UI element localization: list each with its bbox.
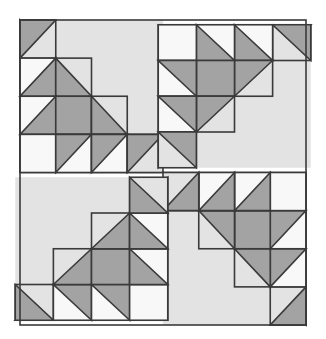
unit-cell-r1-c1: [53, 249, 91, 285]
unit-cell-r3-c3: [158, 132, 196, 168]
unit-cell-r2-c2: [92, 96, 128, 134]
solid-patch: [158, 25, 196, 61]
quilt-canvas: [0, 0, 326, 339]
unit-cell-r1-c0: [270, 249, 306, 287]
unit-cell-r2-c0: [92, 285, 130, 321]
unit-cell-r2-c2: [92, 213, 130, 249]
unit-cell-r2-c0: [196, 25, 234, 61]
unit-cell-r3-c2: [199, 172, 235, 210]
unit-cell-r2-c1: [235, 211, 271, 249]
quadrant-top-right: [158, 25, 311, 168]
unit-cell-r2-c0: [20, 96, 56, 134]
unit-cell-r0-c0: [270, 287, 306, 325]
unit-cell-r0-c0: [273, 25, 311, 61]
solid-patch: [56, 96, 92, 134]
unit-cell-r1-c0: [53, 285, 91, 321]
unit-cell-r0-c0: [20, 20, 56, 58]
unit-cell-r3-c1: [56, 134, 92, 172]
quilt-block-diagram: [0, 0, 326, 339]
quadrant-top-left: [20, 20, 163, 173]
solid-patch: [235, 211, 271, 249]
unit-cell-r0-c0: [15, 285, 53, 321]
unit-cell-r2-c2: [199, 211, 235, 249]
unit-cell-r3-c0: [158, 25, 196, 61]
unit-cell-r1-c0: [20, 58, 56, 96]
unit-cell-r3-c1: [235, 172, 271, 210]
unit-cell-r3-c1: [158, 61, 196, 97]
unit-cell-r2-c0: [270, 211, 306, 249]
solid-patch: [92, 249, 130, 285]
unit-cell-r3-c2: [130, 213, 168, 249]
quadrant-bottom-right: [163, 172, 306, 325]
unit-cell-r3-c0: [270, 172, 306, 210]
unit-cell-r3-c2: [92, 134, 128, 172]
solid-patch: [270, 172, 306, 210]
unit-cell-r2-c1: [92, 249, 130, 285]
unit-cell-r3-c0: [130, 285, 168, 321]
quilt-quadrant-group: [15, 20, 311, 325]
quadrant-bottom-left: [15, 177, 168, 320]
unit-cell-r1-c1: [235, 249, 271, 287]
unit-cell-r2-c1: [196, 61, 234, 97]
unit-cell-r1-c0: [234, 25, 272, 61]
unit-cell-r1-c1: [56, 58, 92, 96]
unit-cell-r2-c1: [56, 96, 92, 134]
solid-patch: [130, 285, 168, 321]
solid-patch: [196, 61, 234, 97]
unit-cell-r2-c2: [196, 96, 234, 132]
unit-cell-r1-c1: [234, 61, 272, 97]
unit-cell-r3-c2: [158, 96, 196, 132]
unit-cell-r3-c1: [130, 249, 168, 285]
unit-cell-r3-c3: [130, 177, 168, 213]
solid-patch: [20, 134, 56, 172]
unit-cell-r3-c0: [20, 134, 56, 172]
